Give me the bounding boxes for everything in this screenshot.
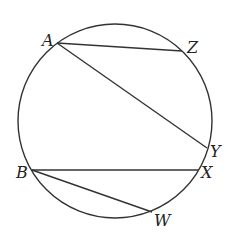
point-label-x: X (199, 163, 213, 182)
chord-a-y (57, 43, 207, 148)
circle (18, 24, 212, 218)
chord-b-w (32, 170, 152, 212)
point-label-b: B (15, 163, 28, 182)
chord-a-z (57, 43, 182, 51)
point-label-z: Z (186, 38, 199, 57)
point-label-w: W (154, 211, 172, 230)
point-label-a: A (40, 31, 54, 50)
circle-chord-diagram: A Z Y X B W (0, 0, 234, 235)
point-label-y: Y (210, 142, 222, 161)
